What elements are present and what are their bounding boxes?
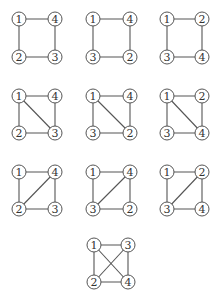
graph-4: 1423: [12, 89, 62, 140]
graph-1: 1423: [12, 12, 62, 64]
node-label: 1: [90, 90, 97, 103]
node-label: 4: [199, 51, 206, 64]
node-label: 1: [16, 13, 23, 26]
node-3: 3: [48, 202, 62, 216]
node-3: 3: [86, 202, 100, 216]
node-2: 2: [123, 126, 137, 140]
node-label: 3: [90, 51, 97, 64]
node-4: 4: [121, 275, 135, 289]
node-label: 3: [52, 127, 59, 140]
node-label: 3: [164, 127, 171, 140]
node-1: 1: [87, 238, 101, 252]
graph-7: 1423: [12, 165, 62, 216]
node-3: 3: [86, 126, 100, 140]
graph-9: 1234: [160, 165, 209, 216]
node-3: 3: [160, 126, 174, 140]
node-label: 3: [90, 127, 97, 140]
node-label: 3: [164, 51, 171, 64]
node-label: 1: [164, 13, 171, 26]
node-4: 4: [195, 126, 209, 140]
node-label: 1: [90, 166, 97, 179]
node-1: 1: [160, 165, 174, 179]
graph-diagram-canvas: 1423143212341423143212341423143212341324: [0, 0, 222, 301]
edge-1-3: [19, 96, 55, 133]
node-3: 3: [48, 126, 62, 140]
node-1: 1: [160, 12, 174, 26]
node-2: 2: [87, 275, 101, 289]
node-label: 2: [16, 203, 23, 216]
node-1: 1: [86, 12, 100, 26]
node-label: 4: [199, 127, 206, 140]
node-2: 2: [123, 50, 137, 64]
node-4: 4: [123, 89, 137, 103]
node-label: 2: [16, 127, 23, 140]
node-label: 4: [52, 90, 59, 103]
node-2: 2: [195, 89, 209, 103]
edge-1-4: [167, 96, 202, 133]
node-label: 4: [125, 276, 132, 289]
node-label: 1: [164, 90, 171, 103]
node-label: 2: [127, 127, 134, 140]
edge-1-2: [93, 96, 130, 133]
node-label: 1: [16, 166, 23, 179]
node-2: 2: [12, 50, 26, 64]
node-4: 4: [195, 50, 209, 64]
node-label: 4: [127, 90, 134, 103]
node-4: 4: [48, 12, 62, 26]
node-1: 1: [86, 89, 100, 103]
graph-3: 1234: [160, 12, 209, 64]
node-label: 3: [52, 203, 59, 216]
node-label: 2: [16, 51, 23, 64]
node-2: 2: [12, 126, 26, 140]
node-1: 1: [86, 165, 100, 179]
node-3: 3: [121, 238, 135, 252]
node-label: 3: [52, 51, 59, 64]
node-label: 4: [127, 166, 134, 179]
edge-4-3: [93, 172, 130, 209]
node-4: 4: [123, 12, 137, 26]
node-label: 4: [199, 203, 206, 216]
node-label: 2: [199, 13, 206, 26]
node-2: 2: [123, 202, 137, 216]
node-4: 4: [195, 202, 209, 216]
node-label: 4: [127, 13, 134, 26]
node-3: 3: [86, 50, 100, 64]
node-1: 1: [12, 165, 26, 179]
node-label: 1: [16, 90, 23, 103]
node-label: 3: [90, 203, 97, 216]
node-label: 4: [52, 166, 59, 179]
edge-2-3: [167, 172, 202, 209]
node-4: 4: [48, 89, 62, 103]
node-label: 3: [125, 239, 132, 252]
graph-2: 1432: [86, 12, 137, 64]
node-1: 1: [12, 12, 26, 26]
edge-4-2: [19, 172, 55, 209]
graph-5: 1432: [86, 89, 137, 140]
node-3: 3: [48, 50, 62, 64]
graph-10: 1324: [87, 238, 135, 289]
node-4: 4: [48, 165, 62, 179]
node-label: 2: [199, 90, 206, 103]
node-label: 2: [127, 203, 134, 216]
graph-8: 1432: [86, 165, 137, 216]
node-label: 3: [164, 203, 171, 216]
node-label: 4: [52, 13, 59, 26]
node-label: 2: [127, 51, 134, 64]
node-2: 2: [12, 202, 26, 216]
node-label: 1: [91, 239, 98, 252]
node-2: 2: [195, 12, 209, 26]
node-label: 1: [164, 166, 171, 179]
node-4: 4: [123, 165, 137, 179]
node-label: 2: [91, 276, 98, 289]
node-1: 1: [12, 89, 26, 103]
node-label: 1: [90, 13, 97, 26]
node-3: 3: [160, 202, 174, 216]
node-1: 1: [160, 89, 174, 103]
node-2: 2: [195, 165, 209, 179]
graph-6: 1234: [160, 89, 209, 140]
node-3: 3: [160, 50, 174, 64]
node-label: 2: [199, 166, 206, 179]
